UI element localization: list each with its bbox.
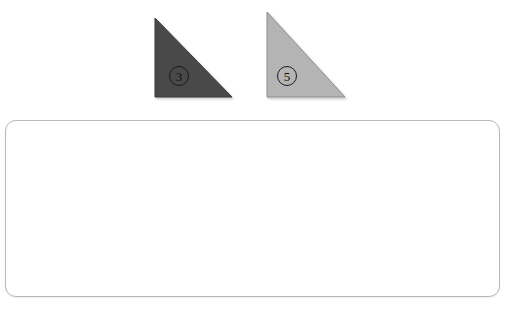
worksheet-canvas: 3 5 [0, 0, 513, 311]
triangle-3-shape[interactable] [155, 18, 232, 97]
triangle-5-label-text: 5 [284, 69, 291, 82]
answer-panel[interactable] [5, 120, 500, 297]
answer-panel-content[interactable] [6, 121, 499, 296]
triangle-5-label-badge: 5 [277, 66, 297, 86]
triangle-3-label-text: 3 [176, 69, 183, 82]
triangle-3-label-badge: 3 [169, 66, 189, 86]
triangle-5-shape[interactable] [267, 12, 345, 97]
